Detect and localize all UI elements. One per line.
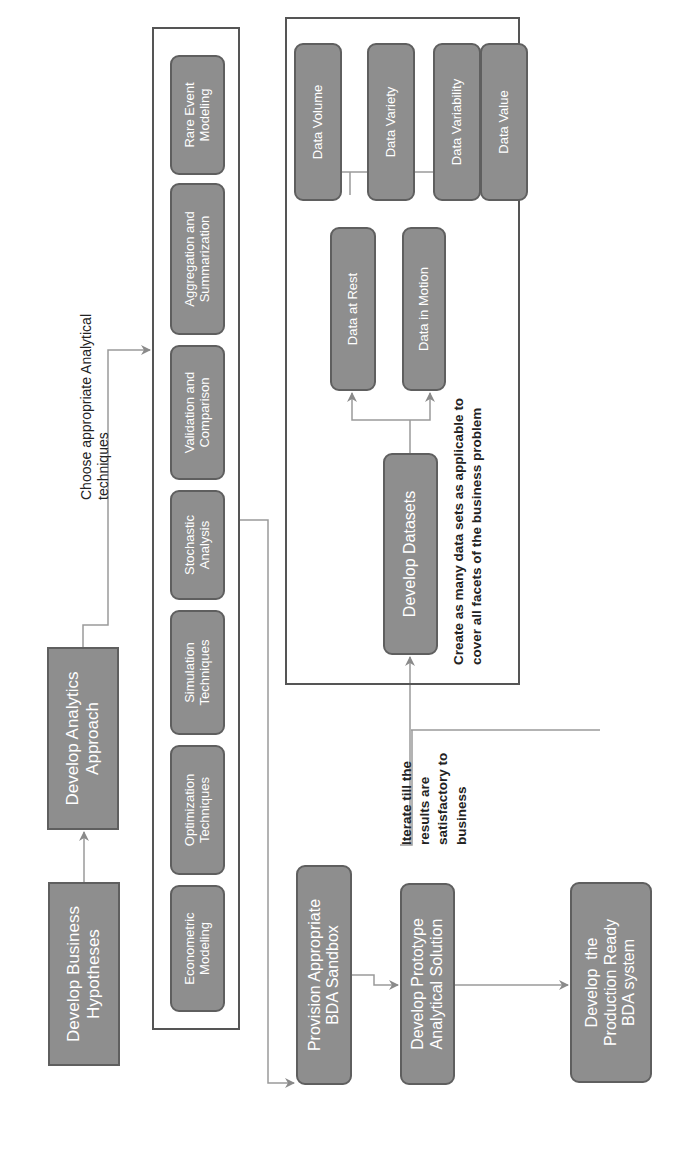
note-line: business bbox=[453, 695, 471, 845]
node-label: Stochastic bbox=[183, 515, 198, 575]
node-label: Simulation bbox=[183, 640, 198, 706]
develop-prototype-solution-node: Develop Prototype Analytical Solution bbox=[400, 883, 455, 1085]
technique-stochastic-analysis: Stochastic Analysis bbox=[170, 490, 225, 600]
technique-aggregation-and-summarization: Aggregation and Summarization bbox=[170, 183, 225, 335]
node-label: Develop the bbox=[583, 919, 601, 1046]
develop-production-bda-system-node: Develop the Production Ready BDA system bbox=[570, 882, 652, 1083]
note-line: Create as many data sets as applicable t… bbox=[450, 245, 468, 665]
node-label: Data Volume bbox=[311, 85, 326, 159]
note-line: techniques bbox=[95, 200, 112, 500]
node-label: Aggregation and bbox=[183, 211, 198, 306]
data-variety-node: Data Variety bbox=[367, 43, 415, 201]
node-label: Analysis bbox=[198, 515, 213, 575]
node-label: Data in Motion bbox=[417, 267, 432, 351]
note-line: Choose appropriate Analytical bbox=[78, 200, 95, 500]
node-label: Data at Rest bbox=[346, 273, 361, 345]
node-label: Techniques bbox=[198, 774, 213, 846]
node-label: Data Variety bbox=[384, 87, 399, 158]
develop-business-hypotheses-node: Develop Business Hypotheses bbox=[48, 882, 120, 1066]
node-label: Validation and bbox=[183, 372, 198, 453]
analytics-process-diagram: Develop Business Hypotheses Develop Anal… bbox=[0, 0, 684, 1175]
node-label: Develop Datasets bbox=[401, 491, 419, 617]
iterate-note: Iterate till the results are satisfactor… bbox=[398, 695, 471, 845]
technique-rare-event-modeling: Rare Event Modeling bbox=[170, 55, 225, 175]
data-value-node: Data Value bbox=[480, 43, 528, 201]
node-label: Data Value bbox=[497, 90, 512, 153]
data-variability-node: Data Variability bbox=[433, 43, 481, 201]
technique-simulation-techniques: Simulation Techniques bbox=[170, 610, 225, 735]
technique-econometric-modeling: Econometric Modeling bbox=[170, 885, 225, 1012]
node-label: BDA system bbox=[620, 919, 638, 1046]
node-label: Techniques bbox=[198, 640, 213, 706]
technique-validation-and-comparison: Validation and Comparison bbox=[170, 345, 225, 480]
node-label: Optimization bbox=[183, 774, 198, 846]
develop-analytics-approach-node: Develop Analytics Approach bbox=[47, 647, 119, 830]
node-label: Analytical Solution bbox=[428, 918, 446, 1050]
data-in-motion-node: Data in Motion bbox=[402, 227, 446, 391]
techniques-label: Choose appropriate Analytical techniques bbox=[78, 200, 112, 500]
node-label: Comparison bbox=[198, 372, 213, 453]
node-label: Production Ready bbox=[602, 919, 620, 1046]
node-label: Summarization bbox=[198, 211, 213, 306]
node-label: Develop Prototype bbox=[409, 918, 427, 1050]
node-label: Rare Event bbox=[183, 82, 198, 147]
technique-optimization-techniques: Optimization Techniques bbox=[170, 745, 225, 875]
provision-bda-sandbox-node: Provision Appropriate BDA Sandbox bbox=[296, 865, 352, 1085]
node-label: Approach bbox=[83, 671, 103, 805]
note-line: cover all facets of the business problem bbox=[468, 245, 486, 665]
datasets-note: Create as many data sets as applicable t… bbox=[450, 245, 486, 665]
note-line: satisfactory to bbox=[434, 695, 452, 845]
node-label: Develop Analytics bbox=[63, 671, 83, 805]
data-at-rest-node: Data at Rest bbox=[330, 227, 376, 391]
node-label: Develop Business bbox=[64, 906, 84, 1042]
node-label: Data Variability bbox=[450, 79, 465, 165]
node-label: Hypotheses bbox=[84, 906, 104, 1042]
node-label: Provision Appropriate bbox=[306, 899, 324, 1051]
note-line: Iterate till the bbox=[398, 695, 416, 845]
node-label: Econometric bbox=[183, 912, 198, 984]
develop-datasets-node: Develop Datasets bbox=[383, 453, 438, 655]
note-line: results are bbox=[416, 695, 434, 845]
node-label: Modeling bbox=[198, 82, 213, 147]
data-volume-node: Data Volume bbox=[294, 43, 342, 201]
node-label: Modeling bbox=[198, 912, 213, 984]
node-label: BDA Sandbox bbox=[324, 899, 342, 1051]
